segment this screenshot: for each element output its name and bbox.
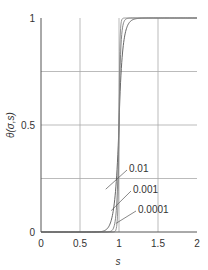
annotation-label: 0.001 xyxy=(133,184,158,195)
y-ticks: 00.51 xyxy=(21,13,35,238)
y-axis-label: θ(σ,s) xyxy=(5,112,16,138)
x-axis-label: s xyxy=(116,256,121,267)
chart: 00.511.52 00.51 0.010.0010.0001 s θ(σ,s) xyxy=(0,0,208,270)
x-tick-label: 1.5 xyxy=(151,238,165,249)
y-tick-label: 1 xyxy=(29,13,35,24)
y-tick-label: 0 xyxy=(29,227,35,238)
annotation-label: 0.0001 xyxy=(138,204,169,215)
x-tick-label: 2 xyxy=(194,238,200,249)
x-tick-label: 1 xyxy=(116,238,122,249)
x-tick-label: 0 xyxy=(38,238,44,249)
annotation-label: 0.01 xyxy=(129,163,149,174)
x-ticks: 00.511.52 xyxy=(38,238,200,249)
y-tick-label: 0.5 xyxy=(21,120,35,131)
x-tick-label: 0.5 xyxy=(73,238,87,249)
